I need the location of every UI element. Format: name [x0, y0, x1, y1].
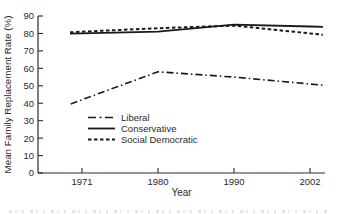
y-tick-label: 40	[23, 98, 34, 109]
x-axis-title: Year	[171, 187, 192, 198]
x-tick-label: 2002	[299, 176, 320, 187]
y-tick-label: 60	[23, 63, 34, 74]
cropped-caption-remnant	[9, 210, 328, 213]
legend-label-conservative: Conservative	[121, 123, 176, 134]
x-tick-label: 1971	[71, 176, 92, 187]
line-chart: 01020304050607080901971198019902002Mean …	[0, 0, 338, 214]
x-tick-label: 1990	[223, 176, 244, 187]
series-line-liberal	[71, 72, 323, 104]
y-axis-title: Mean Family Replacement Rate (%)	[2, 16, 13, 174]
x-tick-label: 1980	[147, 176, 168, 187]
y-tick-label: 70	[23, 45, 34, 56]
replacement-rate-figure: 01020304050607080901971198019902002Mean …	[0, 0, 338, 214]
legend-label-liberal: Liberal	[121, 112, 150, 123]
y-tick-label: 90	[23, 10, 34, 21]
y-tick-label: 10	[23, 150, 34, 161]
y-tick-label: 0	[29, 167, 34, 178]
legend-label-social-democratic: Social Democratic	[121, 134, 198, 145]
y-tick-label: 50	[23, 80, 34, 91]
y-tick-label: 20	[23, 133, 34, 144]
y-tick-label: 80	[23, 28, 34, 39]
y-tick-label: 30	[23, 115, 34, 126]
